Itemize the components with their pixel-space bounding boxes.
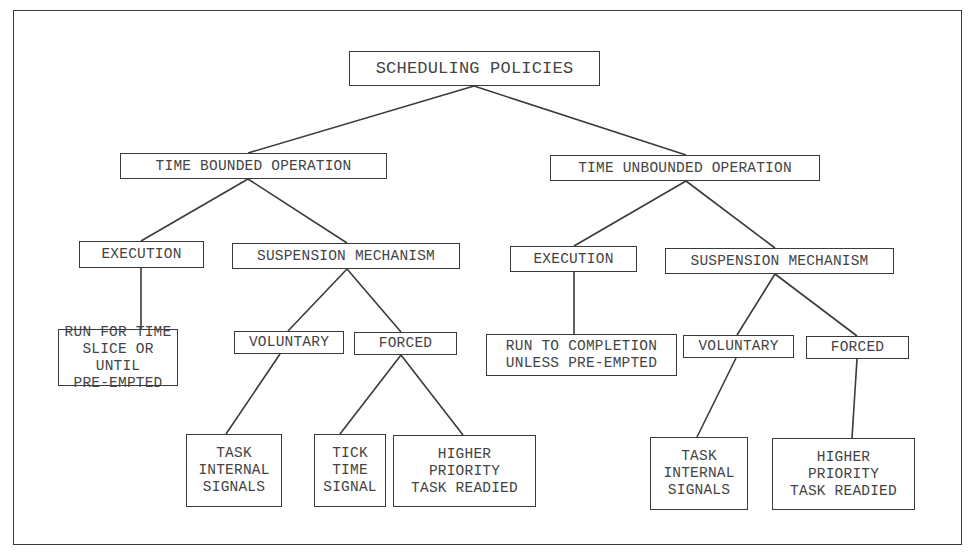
node-tuo-voluntary: VOLUNTARY: [683, 335, 794, 358]
connector-line: [288, 269, 347, 331]
node-tbo-execution: EXECUTION: [79, 241, 204, 268]
connector-line: [347, 269, 401, 332]
node-tbo-voluntary: VOLUNTARY: [234, 331, 344, 354]
node-tuo-execution: EXECUTION: [510, 246, 637, 272]
node-tuo-higher-priority-task-readied: HIGHER PRIORITY TASK READIED: [772, 438, 915, 510]
connector-line: [737, 274, 775, 335]
connector-line: [775, 274, 857, 336]
node-tbo-suspension-mechanism: SUSPENSION MECHANISM: [232, 243, 460, 269]
node-tbo-run-for-time-slice: RUN FOR TIME SLICE OR UNTIL PRE-EMPTED: [58, 329, 178, 386]
node-tuo-suspension-mechanism: SUSPENSION MECHANISM: [665, 248, 894, 274]
connector-line: [474, 86, 686, 155]
node-tbo-task-internal-signals: TASK INTERNAL SIGNALS: [186, 434, 282, 507]
node-tuo-forced: FORCED: [806, 336, 909, 359]
connector-line: [697, 358, 736, 437]
node-tuo-run-to-completion: RUN TO COMPLETION UNLESS PRE-EMPTED: [486, 334, 677, 376]
connector-line: [248, 179, 347, 243]
connector-line: [141, 179, 248, 241]
connector-line: [248, 86, 474, 153]
connector-line: [226, 354, 280, 434]
node-time-bounded-operation: TIME BOUNDED OPERATION: [120, 153, 387, 179]
node-tbo-higher-priority-task-readied: HIGHER PRIORITY TASK READIED: [393, 435, 536, 507]
node-time-unbounded-operation: TIME UNBOUNDED OPERATION: [550, 155, 820, 181]
connector-line: [852, 359, 857, 438]
node-tbo-forced: FORCED: [354, 332, 457, 355]
connector-line: [686, 181, 775, 248]
node-scheduling-policies: SCHEDULING POLICIES: [349, 51, 600, 86]
node-tuo-task-internal-signals: TASK INTERNAL SIGNALS: [650, 437, 748, 510]
connector-line: [340, 355, 401, 434]
node-tbo-tick-time-signal: TICK TIME SIGNAL: [314, 434, 386, 507]
connector-line: [574, 181, 686, 246]
connector-line: [401, 355, 463, 435]
